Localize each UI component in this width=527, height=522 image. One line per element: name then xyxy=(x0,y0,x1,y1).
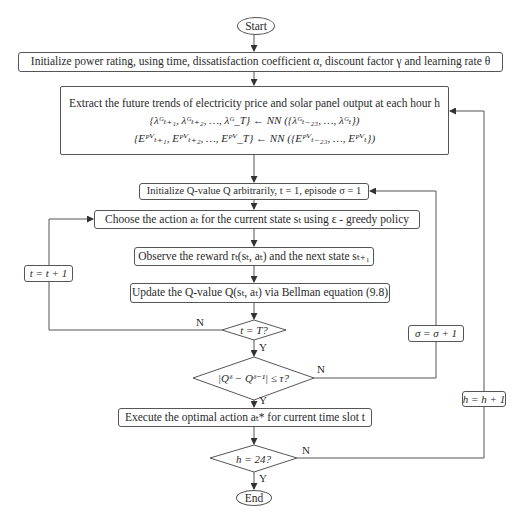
decision-t-label: t = T? xyxy=(240,324,268,336)
branch-no-conv: N xyxy=(317,363,325,375)
start-terminal: Start xyxy=(237,17,275,35)
branch-yes-t: Y xyxy=(259,341,267,353)
init-params-box: Initialize power rating, using time, dis… xyxy=(18,52,503,72)
observe-reward-box: Observe the reward rₜ(sₜ, aₜ) and the ne… xyxy=(134,247,374,266)
choose-action-box: Choose the action aₜ for the current sta… xyxy=(94,210,420,229)
h-increment-label: h = h + 1 xyxy=(463,393,505,406)
decision-h-label: h = 24? xyxy=(236,453,271,465)
end-label: End xyxy=(245,492,264,504)
decision-convergence-label: |Qᵟ − Qᵟ⁻¹| ≤ τ? xyxy=(218,372,289,385)
decision-convergence: |Qᵟ − Qᵟ⁻¹| ≤ τ? xyxy=(193,357,314,400)
init-q-box: Initialize Q-value Q arbitrarily, t = 1,… xyxy=(139,183,369,200)
decision-h-equals-24: h = 24? xyxy=(210,445,297,472)
extract-line-2: {λᴳₜ₊₁, λᴳₜ₊₂, …, λᴳ_T} ← NN ({λᴳₜ₋₂₃, …… xyxy=(150,114,360,127)
extract-trends-box: Extract the future trends of electricity… xyxy=(60,86,449,155)
branch-no-h: N xyxy=(302,444,310,456)
init-params-label: Initialize power rating, using time, dis… xyxy=(31,55,490,68)
branch-no-t: N xyxy=(196,316,204,328)
observe-reward-label: Observe the reward rₜ(sₜ, aₜ) and the ne… xyxy=(138,250,370,263)
t-increment-box: t = t + 1 xyxy=(24,265,73,282)
start-label: Start xyxy=(245,20,267,32)
init-q-label: Initialize Q-value Q arbitrarily, t = 1,… xyxy=(147,185,362,197)
decision-t-equals-T: t = T? xyxy=(222,320,286,340)
update-q-label: Update the Q-value Q(sₜ, aₜ) via Bellman… xyxy=(132,286,388,299)
execute-action-box: Execute the optimal action aₜ* for curre… xyxy=(118,408,372,427)
t-increment-label: t = t + 1 xyxy=(30,267,67,280)
sigma-increment-box: σ = σ + 1 xyxy=(408,325,464,342)
branch-yes-conv: Y xyxy=(259,394,267,406)
branch-yes-h: Y xyxy=(259,472,267,484)
h-increment-box: h = h + 1 xyxy=(462,391,506,407)
extract-line-1: Extract the future trends of electricity… xyxy=(69,97,440,110)
extract-line-3: {Eᴾⱽₜ₊₁, Eᴾⱽₜ₊₂, …, Eᴾⱽ_T} ← NN ({Eᴾⱽₜ₋₂… xyxy=(134,132,375,145)
update-q-box: Update the Q-value Q(sₜ, aₜ) via Bellman… xyxy=(130,283,390,303)
choose-action-label: Choose the action aₜ for the current sta… xyxy=(105,213,409,226)
sigma-increment-label: σ = σ + 1 xyxy=(415,327,457,340)
end-terminal: End xyxy=(236,490,272,506)
execute-action-label: Execute the optimal action aₜ* for curre… xyxy=(125,411,365,424)
